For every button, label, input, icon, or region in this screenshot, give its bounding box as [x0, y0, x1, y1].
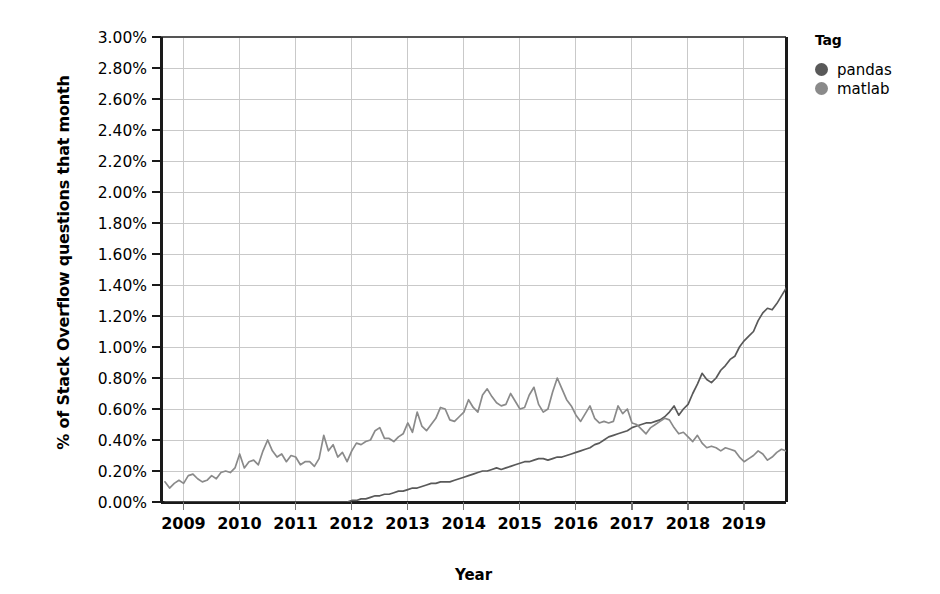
y-tick-label: 0.80% — [98, 370, 147, 388]
x-tick-label: 2017 — [610, 514, 655, 533]
x-tick-label: 2019 — [722, 514, 767, 533]
legend-items: pandasmatlab — [815, 60, 935, 98]
chart-legend: Tag pandasmatlab — [815, 32, 935, 98]
legend-item-pandas[interactable]: pandas — [815, 60, 935, 79]
chart-page: % of Stack Overflow questions that month… — [0, 0, 940, 594]
y-tick-label: 1.60% — [98, 246, 147, 264]
legend-item-label: pandas — [837, 62, 892, 78]
legend-item-label: matlab — [837, 81, 890, 97]
legend-swatch-icon — [815, 82, 828, 95]
y-tick-label: 1.20% — [98, 308, 147, 326]
legend-title: Tag — [815, 32, 935, 48]
y-tick-label: 0.60% — [98, 401, 147, 419]
legend-item-matlab[interactable]: matlab — [815, 79, 935, 98]
y-tick-label: 2.80% — [98, 60, 147, 78]
x-tick-label: 2012 — [329, 514, 374, 533]
x-tick-label: 2018 — [666, 514, 711, 533]
line-chart: 3.00%2.80%2.60%2.40%2.20%2.00%1.80%1.60%… — [0, 0, 940, 594]
x-axis-title: Year — [161, 566, 786, 584]
y-tick-label: 2.40% — [98, 122, 147, 140]
y-tick-label: 1.00% — [98, 339, 147, 357]
y-tick-label: 0.40% — [98, 432, 147, 450]
y-tick-label: 2.00% — [98, 184, 147, 202]
x-tick-label: 2013 — [385, 514, 430, 533]
y-tick-label: 3.00% — [98, 29, 147, 47]
x-tick-label: 2010 — [217, 514, 262, 533]
x-tick-label: 2015 — [497, 514, 542, 533]
x-tick-label: 2009 — [161, 514, 206, 533]
x-tick-label: 2011 — [273, 514, 318, 533]
y-tick-label: 0.00% — [98, 494, 147, 512]
x-axis-ticks: 2009201020112012201320142015201620172018… — [161, 502, 766, 533]
y-tick-label: 2.60% — [98, 91, 147, 109]
y-tick-label: 1.40% — [98, 277, 147, 295]
y-axis-ticks: 3.00%2.80%2.60%2.40%2.20%2.00%1.80%1.60%… — [98, 29, 161, 512]
y-tick-label: 1.80% — [98, 215, 147, 233]
x-tick-label: 2014 — [441, 514, 486, 533]
series-group — [165, 142, 903, 502]
series-line-matlab — [165, 378, 814, 488]
y-tick-label: 2.20% — [98, 153, 147, 171]
gridlines — [161, 37, 786, 502]
series-line-pandas — [165, 142, 903, 502]
x-tick-label: 2016 — [554, 514, 599, 533]
legend-swatch-icon — [815, 63, 828, 76]
y-tick-label: 0.20% — [98, 463, 147, 481]
